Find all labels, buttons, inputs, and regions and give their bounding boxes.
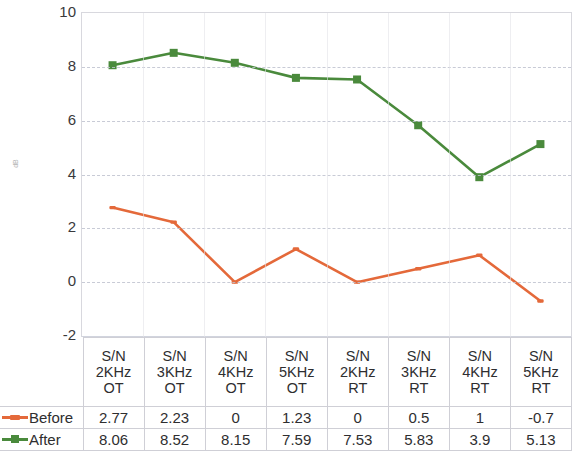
category-header-line: OT	[145, 380, 205, 396]
value-cell: 2.23	[144, 406, 205, 428]
y-tick-label: 4	[34, 166, 76, 181]
legend-label: After	[29, 432, 61, 447]
category-header-cell: S/N2KHzOT	[83, 337, 144, 406]
legend-item-before[interactable]: Before	[0, 406, 83, 428]
value-cell: 0	[327, 406, 388, 428]
category-header-line: RT	[511, 380, 571, 396]
table-row: After8.068.528.157.597.535.833.95.13	[0, 428, 572, 450]
data-point-marker	[109, 61, 117, 69]
category-header-line: RT	[389, 380, 449, 396]
value-cell: 8.15	[205, 428, 266, 450]
value-cell: 2.77	[83, 406, 144, 428]
category-separator	[388, 13, 389, 337]
data-point-marker	[476, 254, 482, 257]
value-cell: 7.59	[266, 428, 327, 450]
legend-label: Before	[29, 410, 73, 425]
data-point-marker	[170, 49, 178, 57]
value-cell: 1	[449, 406, 510, 428]
category-header-line: 3KHz	[145, 364, 205, 380]
category-header-line: 4KHz	[450, 364, 510, 380]
data-point-marker	[537, 299, 543, 302]
category-header-cell: S/N5KHzRT	[510, 337, 571, 406]
category-header-line: S/N	[206, 348, 266, 364]
category-header-cell: S/N3KHzOT	[144, 337, 205, 406]
series-value-table: S/N2KHzOTS/N3KHzOTS/N4KHzOTS/N5KHzOTS/N2…	[0, 337, 572, 451]
category-separator	[204, 13, 205, 337]
value-cell: 8.52	[144, 428, 205, 450]
value-cell: 5.13	[510, 428, 571, 450]
category-header-line: RT	[450, 380, 510, 396]
data-table: S/N2KHzOTS/N3KHzOTS/N4KHzOTS/N5KHzOTS/N2…	[0, 337, 580, 447]
legend-marker-after-icon	[2, 433, 28, 445]
category-header-line: 2KHz	[328, 364, 388, 380]
data-point-marker	[353, 75, 361, 83]
data-point-marker	[536, 140, 544, 148]
plot-area	[81, 12, 572, 337]
category-header-line: 4KHz	[206, 364, 266, 380]
category-header-line: S/N	[389, 348, 449, 364]
category-header-line: S/N	[145, 348, 205, 364]
value-cell: 8.06	[83, 428, 144, 450]
category-header-line: 5KHz	[511, 364, 571, 380]
y-tick-label: 6	[34, 112, 76, 127]
category-header-line: OT	[267, 380, 327, 396]
category-header-cell: S/N3KHzRT	[388, 337, 449, 406]
category-header-line: 3KHz	[389, 364, 449, 380]
category-separator	[510, 13, 511, 337]
data-point-marker	[293, 247, 299, 250]
value-cell: 5.83	[388, 428, 449, 450]
y-axis-title: dB	[12, 151, 19, 177]
category-header-cell: S/N5KHzOT	[266, 337, 327, 406]
value-cell: 0	[205, 406, 266, 428]
table-corner-cell	[0, 337, 83, 406]
category-header-line: RT	[328, 380, 388, 396]
legend-item-after[interactable]: After	[0, 428, 83, 450]
category-header-line: S/N	[328, 348, 388, 364]
category-header-line: OT	[84, 380, 144, 396]
category-header-line: 5KHz	[267, 364, 327, 380]
category-separator	[143, 13, 144, 337]
value-cell: 0.5	[388, 406, 449, 428]
category-header-line: S/N	[84, 348, 144, 364]
y-tick-label: 10	[34, 4, 76, 19]
category-header-cell: S/N4KHzOT	[205, 337, 266, 406]
data-point-marker	[231, 59, 239, 67]
category-separator	[265, 13, 266, 337]
category-header-line: S/N	[450, 348, 510, 364]
data-point-marker	[414, 121, 422, 129]
category-separator	[327, 13, 328, 337]
value-cell: -0.7	[510, 406, 571, 428]
category-header-line: S/N	[511, 348, 571, 364]
value-cell: 3.9	[449, 428, 510, 450]
data-point-marker	[170, 220, 176, 223]
y-tick-label: 2	[34, 219, 76, 234]
data-point-marker	[415, 267, 421, 270]
value-cell: 1.23	[266, 406, 327, 428]
category-header-row: S/N2KHzOTS/N3KHzOTS/N4KHzOTS/N5KHzOTS/N2…	[0, 337, 572, 406]
legend-marker-before-icon	[2, 411, 28, 423]
category-header-cell: S/N4KHzRT	[449, 337, 510, 406]
category-header-cell: S/N2KHzRT	[327, 337, 388, 406]
category-header-line: OT	[206, 380, 266, 396]
category-header-line: S/N	[267, 348, 327, 364]
value-cell: 7.53	[327, 428, 388, 450]
category-separator	[449, 13, 450, 337]
data-point-marker	[292, 74, 300, 82]
data-point-marker	[109, 206, 115, 209]
y-tick-label: 0	[34, 273, 76, 288]
category-header-line: 2KHz	[84, 364, 144, 380]
table-row: Before2.772.2301.2300.51-0.7	[0, 406, 572, 428]
y-tick-label: 8	[34, 58, 76, 73]
